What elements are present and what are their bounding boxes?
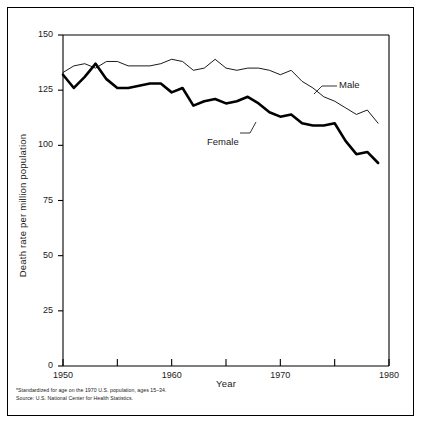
y-ticks-group [58,35,63,366]
series-lines-group [63,59,378,163]
x-ticks-group [63,359,389,366]
x-tick-label: 1980 [369,370,409,380]
male-leader-line [314,86,337,94]
y-axis-title: Death rate per million population [17,121,28,291]
series-line-male [63,59,378,123]
y-tick-label: 150 [27,29,53,39]
footnote-source: Source: U.S. National Center for Health … [16,394,346,402]
x-tick-label: 1970 [260,370,300,380]
series-annotation-female: Female [207,136,239,147]
plot-area: Male Female Death rate per million popul… [0,0,421,423]
x-tick-label: 1950 [43,370,83,380]
y-tick-label: 50 [27,250,53,260]
figure-container: Male Female Death rate per million popul… [0,0,421,423]
footnote-standardization: *Standardized for age on the 1970 U.S. p… [16,386,346,394]
line-chart-svg [0,0,421,423]
female-leader-line [240,122,256,133]
y-tick-label: 25 [27,305,53,315]
series-line-female [63,64,378,163]
x-tick-label: 1960 [152,370,192,380]
y-tick-label: 125 [27,84,53,94]
y-tick-label: 0 [27,360,53,370]
y-tick-label: 100 [27,139,53,149]
y-tick-label: 75 [27,195,53,205]
series-annotation-male: Male [339,79,360,90]
footnotes-block: *Standardized for age on the 1970 U.S. p… [16,386,346,402]
